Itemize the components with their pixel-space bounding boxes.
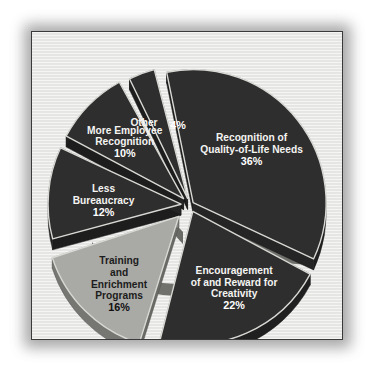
slice-label-text: Recognition	[95, 136, 154, 147]
slice-label-text: Quality-of-Life Needs	[200, 144, 303, 155]
slice-label-text: Creativity	[211, 288, 258, 299]
slice-value-text: 16%	[108, 301, 130, 313]
slice-label-text: of and Reward for	[191, 277, 278, 288]
slice-label-text: and	[110, 267, 128, 278]
slice-label-text: Encouragement	[196, 265, 274, 276]
pie-chart-figure: Recognition ofQuality-of-Life Needs36%En…	[0, 0, 373, 369]
slice-value-text: 22%	[223, 299, 245, 311]
slice-label-text: Recognition of	[216, 132, 288, 143]
chart-panel: Recognition ofQuality-of-Life Needs36%En…	[31, 31, 343, 340]
pie-chart-svg: Recognition ofQuality-of-Life Needs36%En…	[32, 32, 343, 340]
slice-label-text: Enrichment	[91, 279, 148, 290]
slice-label-text: Training	[99, 255, 139, 266]
slice-value-text: 12%	[93, 206, 115, 218]
slice-label-text: Less	[92, 183, 116, 194]
slice-value-text: 10%	[114, 147, 136, 159]
slice-label-text: Programs	[95, 290, 143, 301]
slice-label-text: Bureaucracy	[73, 195, 135, 206]
slice-label-text: Other	[130, 117, 157, 128]
slice-value-text: 4%	[170, 119, 186, 131]
slice-value-text: 36%	[241, 155, 263, 167]
